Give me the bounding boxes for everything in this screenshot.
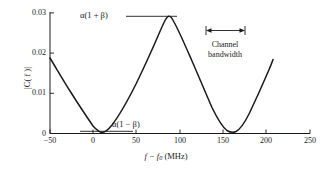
y-tick-label-001: 0.01 (32, 89, 46, 97)
x-tick-label-250: 250 (304, 137, 316, 145)
x-tick-label-minus50: −50 (44, 137, 57, 145)
channel-bandwidth-line2: bandwidth (208, 50, 242, 60)
data-curve-cf (50, 16, 273, 132)
figure-container: 0 0.01 0.02 0.03 −50 0 50 100 150 200 25… (0, 0, 332, 173)
x-axis-title-unit: (MHz) (162, 151, 187, 161)
x-axis-title: f − f0 (MHz) (144, 152, 187, 162)
y-tick-marks (50, 13, 54, 134)
channel-bandwidth-line1: Channel (208, 40, 242, 50)
y-axis-title: |C( f )| (23, 67, 32, 89)
x-tick-label-100: 100 (174, 137, 186, 145)
chart-canvas (0, 0, 332, 173)
y-tick-label-002: 0.02 (32, 49, 46, 57)
annotation-alpha-plus-beta: α(1 + β) (80, 11, 108, 20)
y-tick-label-003: 0.03 (32, 9, 46, 17)
annotation-channel-bandwidth: Channel bandwidth (208, 40, 242, 59)
channel-bandwidth-arrow (206, 26, 245, 35)
x-tick-label-200: 200 (260, 137, 272, 145)
x-tick-label-0: 0 (91, 137, 95, 145)
x-axis-title-main: f − f (144, 151, 159, 161)
annotation-alpha-minus-beta: α(1 − β) (112, 120, 140, 129)
x-tick-label-150: 150 (217, 137, 229, 145)
x-tick-label-50: 50 (132, 137, 140, 145)
